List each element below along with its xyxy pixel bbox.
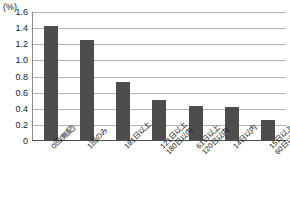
y-axis-tick-label: 0.2 <box>15 120 28 129</box>
y-axis-tick-label: 0.6 <box>15 88 28 97</box>
bar-slot <box>250 12 286 140</box>
bar-chart: (%) 1.61.41.21.00.80.60.40.20 0回(無配)1回のみ… <box>0 0 290 202</box>
bar[interactable] <box>152 100 166 140</box>
y-axis-tick-label: 0.8 <box>15 72 28 81</box>
bar[interactable] <box>116 82 130 140</box>
bar-slot <box>33 12 69 140</box>
x-axis-tick-labels: 0回(無配)1回のみ181日以上121日以上180日以内61日以上120日以内1… <box>32 141 286 202</box>
y-axis-tick-label: 1.2 <box>15 40 28 49</box>
y-axis-tick-label: 0.4 <box>15 104 28 113</box>
bar[interactable] <box>80 40 94 140</box>
y-axis-tick-label: 1.4 <box>15 24 28 33</box>
bar-slot <box>105 12 141 140</box>
y-axis-tick-label: 0 <box>23 137 28 146</box>
y-axis-tick-labels: 1.61.41.21.00.80.60.40.20 <box>0 12 31 141</box>
y-axis-tick-label: 1.6 <box>15 8 28 17</box>
bar-slot <box>69 12 105 140</box>
bar-series <box>33 12 286 140</box>
y-axis-tick-label: 1.0 <box>15 56 28 65</box>
bar[interactable] <box>44 26 58 140</box>
